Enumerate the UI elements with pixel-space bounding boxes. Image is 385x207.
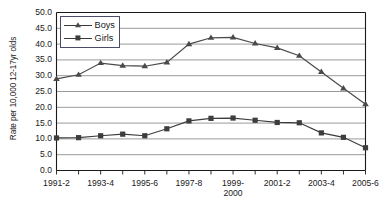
y-tick-label: 35.0 (22, 55, 52, 64)
data-point-marker (341, 135, 346, 140)
legend-label-boys: Boys (95, 20, 115, 31)
data-point-marker (253, 118, 258, 123)
y-tick-label: 20.0 (22, 103, 52, 112)
legend-marker-girls-icon (64, 33, 92, 44)
data-point-marker (208, 116, 213, 121)
y-tick-label: 25.0 (22, 87, 52, 96)
data-point-marker (142, 133, 147, 138)
y-axis-title: Rate per 10,000 12-17yr olds (9, 14, 18, 164)
data-point-marker (98, 133, 103, 138)
data-point-marker (319, 130, 324, 135)
data-point-marker (230, 115, 235, 120)
y-tick-label: 45.0 (22, 24, 52, 33)
y-tick-label: 5.0 (22, 150, 52, 159)
data-point-marker (340, 85, 347, 90)
data-point-marker (208, 34, 215, 39)
data-point-marker (275, 120, 280, 125)
data-point-marker (54, 135, 59, 140)
legend-label-girls: Girls (95, 33, 114, 44)
data-point-marker (120, 132, 125, 137)
y-tick-label: 50.0 (22, 8, 52, 17)
plot-area (0, 0, 385, 207)
y-tick-label: 0.0 (22, 166, 52, 175)
y-tick-label: 15.0 (22, 119, 52, 128)
data-point-marker (164, 126, 169, 131)
y-axis-tick-labels: 50.045.040.035.030.025.020.015.010.05.00… (18, 0, 52, 207)
line-chart: Rate per 10,000 12-17yr olds 50.045.040.… (0, 0, 385, 207)
data-point-marker (362, 101, 369, 106)
chart-legend: Boys Girls (60, 16, 120, 48)
y-tick-label: 30.0 (22, 71, 52, 80)
legend-item-girls: Girls (64, 32, 115, 45)
legend-marker-boys-icon (64, 20, 92, 31)
data-point-marker (297, 120, 302, 125)
y-tick-label: 40.0 (22, 40, 52, 49)
legend-item-boys: Boys (64, 19, 115, 32)
data-point-marker (186, 118, 191, 123)
y-tick-label: 10.0 (22, 134, 52, 143)
data-point-marker (318, 69, 325, 74)
data-point-marker (97, 60, 104, 65)
x-tick-label: 2005-6 (339, 178, 385, 188)
data-point-marker (363, 145, 368, 150)
data-point-marker (230, 34, 237, 39)
data-point-marker (76, 135, 81, 140)
